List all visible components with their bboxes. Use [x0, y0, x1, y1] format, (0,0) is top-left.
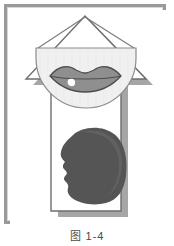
head-profile-silhouette [61, 128, 127, 205]
figure-page: 图 1-4 [0, 0, 174, 246]
figure-caption: 图 1-4 [0, 230, 174, 246]
figure-frame [4, 4, 166, 224]
figure-artwork [10, 10, 166, 224]
artwork-canvas [10, 10, 166, 224]
